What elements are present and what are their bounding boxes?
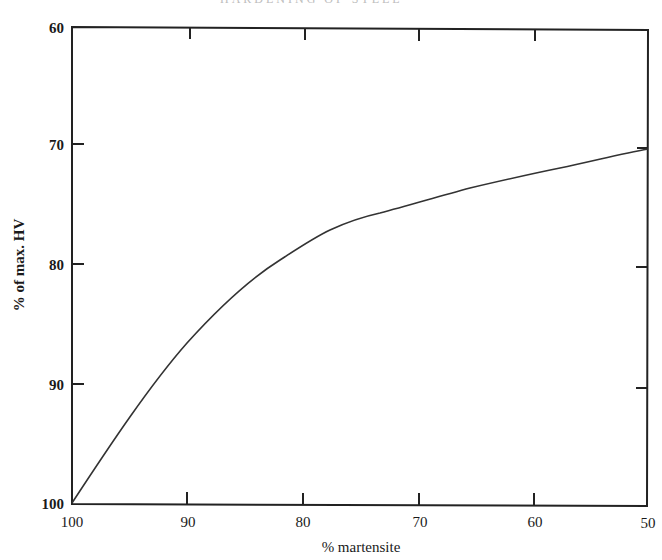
x-tick-60: 60: [528, 514, 543, 530]
x-tick-labels: 100 90 80 70 60 50: [61, 514, 656, 531]
x-tick-50: 50: [641, 515, 656, 531]
bottom-ticks: [187, 492, 534, 505]
x-tick-70: 70: [413, 514, 428, 530]
y-tick-labels: 60 70 80 90 100: [42, 20, 65, 512]
y-tick-80: 80: [49, 257, 64, 273]
left-ticks: [72, 144, 84, 384]
x-tick-90: 90: [181, 514, 196, 530]
y-tick-60: 60: [49, 20, 64, 36]
y-tick-100: 100: [42, 496, 65, 512]
chart: 60 70 80 90 100 100 90 80 70 60 50 % mar…: [0, 0, 662, 560]
x-tick-80: 80: [296, 514, 311, 530]
y-tick-70: 70: [49, 137, 64, 153]
plot-frame: [72, 27, 648, 506]
hardness-curve: [72, 149, 648, 503]
y-tick-90: 90: [49, 377, 64, 393]
right-ticks: [636, 148, 648, 388]
y-axis-title: % of max. HV: [11, 219, 27, 312]
x-axis-title: % martensite: [322, 539, 401, 555]
x-tick-100: 100: [61, 514, 84, 530]
